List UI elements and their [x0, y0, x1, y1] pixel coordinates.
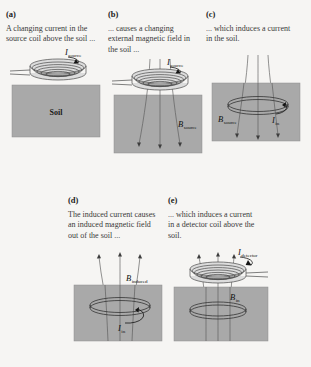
- panel-b-artwork: Isource Bsource: [108, 59, 208, 162]
- soil-block: [174, 287, 268, 341]
- field-arrowheads: [197, 252, 236, 259]
- field-induced-label: Binduced: [126, 273, 148, 284]
- detector-coil: [190, 262, 246, 283]
- panel-c-artwork: Bsource Iin: [206, 49, 306, 152]
- soil-label: Soil: [50, 108, 64, 117]
- panel-d-label: (d): [68, 196, 168, 205]
- panel-d-artwork: Binduced Iin: [68, 245, 168, 345]
- panel-e-artwork: Idetector Bin: [168, 245, 274, 345]
- panel-e: (e) ... which induces a current in a det…: [168, 196, 274, 345]
- panel-e-label: (e): [168, 196, 274, 205]
- panel-b-caption: ... causes a changing external magnetic …: [108, 24, 200, 56]
- soil-block: [212, 83, 300, 141]
- current-detector-label: Idetector: [237, 247, 258, 258]
- figure-container: (a) A changing current in the source coi…: [0, 0, 311, 367]
- panel-d-caption: The induced current causes an induced ma…: [68, 210, 160, 242]
- panel-c: (c) ... which induces a current in the s…: [206, 10, 306, 152]
- panel-a: (a) A changing current in the source coi…: [6, 10, 106, 139]
- panel-a-label: (a): [6, 10, 106, 19]
- panel-a-artwork: Soil: [6, 49, 106, 139]
- panel-a-caption: A changing current in the source coil ab…: [6, 24, 98, 45]
- panel-b-label: (b): [108, 10, 208, 19]
- panel-b: (b) ... causes a changing external magne…: [108, 10, 208, 162]
- panel-c-label: (c): [206, 10, 306, 19]
- panel-d: (d) The induced current causes an induce…: [68, 196, 168, 345]
- coil-leads: [246, 272, 268, 277]
- coil-leads: [112, 80, 132, 85]
- panel-c-caption: ... which induces a current in the soil.: [206, 24, 298, 45]
- coil-leads: [10, 70, 30, 75]
- current-source-label: Isource: [166, 59, 184, 68]
- panel-e-caption: ... which induces a current in a detecto…: [168, 210, 260, 242]
- field-arrowheads: [97, 252, 142, 259]
- current-source-label: Isource: [64, 49, 82, 58]
- current-arrow: [240, 257, 252, 266]
